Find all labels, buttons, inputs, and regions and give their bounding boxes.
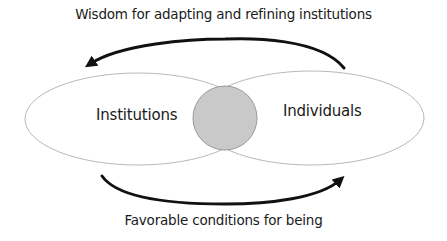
top-arrow xyxy=(90,39,344,68)
institutions-label: Institutions xyxy=(96,108,177,123)
bottom-arrow xyxy=(102,176,340,204)
overlap-circle xyxy=(193,86,257,150)
venn-diagram xyxy=(0,0,447,241)
individuals-label: Individuals xyxy=(283,104,362,119)
top-arrow-label: Wisdom for adapting and refining institu… xyxy=(0,8,447,22)
bottom-arrow-label: Favorable conditions for being xyxy=(0,214,447,228)
